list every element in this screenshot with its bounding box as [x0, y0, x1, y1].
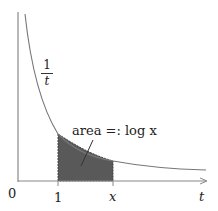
tick-label-x: x [109, 190, 116, 203]
curve-label-denominator: t [40, 75, 54, 88]
axis-label-t: t [199, 190, 204, 203]
diagram-canvas: 1 t area =: log x 0 1 x t [0, 0, 218, 211]
plot-graphics [0, 0, 218, 211]
curve-label-numerator: 1 [40, 59, 54, 72]
curve-label: 1 t [40, 59, 54, 88]
tick-label-one: 1 [54, 191, 62, 204]
curve-one-over-t [25, 14, 206, 170]
area-label: area =: log x [72, 124, 157, 137]
origin-label: 0 [8, 187, 16, 200]
